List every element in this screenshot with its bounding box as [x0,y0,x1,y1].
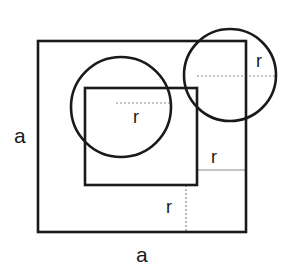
geometry-figure: a a r r r r [0,0,295,278]
radius-label-bottom-gap: r [166,198,172,216]
outer-square [38,41,246,232]
radius-label-left-circle: r [133,108,139,126]
side-label-left: a [14,125,26,146]
right-circle [184,29,276,121]
radius-label-right-gap: r [211,148,217,166]
side-label-bottom: a [136,244,148,265]
figure-canvas [0,0,295,278]
radius-label-right-circle: r [256,52,262,70]
